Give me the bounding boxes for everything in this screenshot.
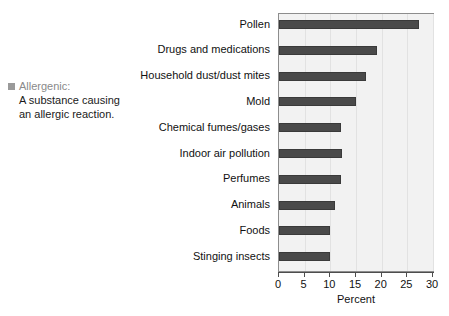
category-label: Foods: [239, 225, 270, 236]
x-axis-tick: [355, 272, 356, 277]
glossary-callout: Allergenic: A substance causing an aller…: [8, 79, 133, 121]
x-axis-tick-label: 30: [426, 278, 438, 290]
category-label: Animals: [231, 199, 270, 210]
bar: [279, 149, 342, 158]
x-axis-tick: [381, 272, 382, 277]
bar: [279, 201, 335, 210]
x-axis-tick-label: 15: [349, 278, 361, 290]
x-axis-title: Percent: [278, 293, 434, 305]
x-axis-tick-label: 20: [375, 278, 387, 290]
x-axis-tick-label: 10: [323, 278, 335, 290]
x-axis-tick-label: 0: [275, 278, 281, 290]
bar: [279, 72, 366, 81]
x-axis-tick-label: 25: [400, 278, 412, 290]
bar: [279, 123, 341, 132]
bar: [279, 97, 356, 106]
glossary-term: Allergenic:: [19, 79, 70, 93]
category-label: Chemical fumes/gases: [159, 122, 270, 133]
x-axis-tick-labels: 051015202530: [278, 278, 434, 292]
category-label: Indoor air pollution: [179, 148, 270, 159]
category-label: Mold: [246, 96, 270, 107]
gridline: [433, 14, 434, 271]
category-label: Pollen: [239, 19, 270, 30]
glossary-definition: A substance causing an allergic reaction…: [19, 93, 133, 121]
bar: [279, 20, 419, 29]
square-bullet-icon: [8, 83, 15, 90]
x-axis-tick: [329, 272, 330, 277]
x-axis-tick-label: 5: [301, 278, 307, 290]
bar: [279, 175, 341, 184]
allergy-triggers-figure: Allergenic: A substance causing an aller…: [0, 0, 449, 316]
category-label: Drugs and medications: [157, 44, 270, 55]
bar: [279, 46, 377, 55]
x-axis-tick: [432, 272, 433, 277]
category-label: Household dust/dust mites: [140, 70, 270, 81]
x-axis-tick: [304, 272, 305, 277]
x-axis-tick: [278, 272, 279, 277]
x-axis-tick: [406, 272, 407, 277]
bar-series: [279, 14, 433, 271]
plot-area: [278, 13, 434, 272]
category-label: Stinging insects: [193, 251, 270, 262]
bar: [279, 252, 330, 261]
bar: [279, 226, 330, 235]
glossary-term-row: Allergenic:: [8, 79, 133, 93]
x-axis-line: [278, 272, 434, 273]
category-label: Perfumes: [223, 173, 270, 184]
